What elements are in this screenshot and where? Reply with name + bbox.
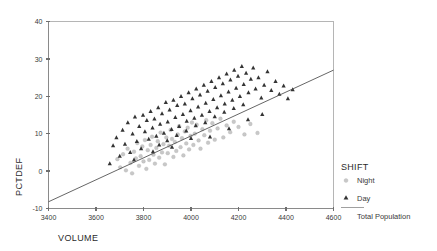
data-point-day — [143, 129, 147, 133]
data-point-night — [149, 143, 153, 147]
chart-canvas: -10010203040 PCTDEF 34003600380040004200… — [0, 0, 437, 251]
data-point-night — [213, 138, 217, 142]
data-point-night — [208, 129, 212, 133]
data-point-night — [182, 153, 186, 157]
data-point-day — [171, 98, 175, 102]
data-point-day — [236, 74, 240, 78]
data-point-day — [238, 94, 242, 98]
data-point-night — [197, 139, 201, 143]
data-point-night — [256, 131, 260, 135]
data-point-night — [187, 148, 191, 152]
data-point-day — [226, 90, 230, 94]
data-point-day — [121, 128, 125, 132]
data-point-day — [166, 119, 170, 123]
data-point-day — [133, 115, 137, 119]
y-tick-label: 20 — [35, 93, 43, 100]
data-point-night — [243, 133, 247, 137]
data-point-night — [130, 171, 134, 175]
y-axis: -10010203040 PCTDEF — [14, 18, 50, 212]
data-point-day — [269, 88, 273, 92]
data-point-night — [221, 136, 225, 140]
data-point-day — [207, 109, 211, 113]
data-point-night — [157, 156, 161, 160]
data-point-night — [132, 150, 136, 154]
data-point-day — [228, 78, 232, 82]
data-point-day — [256, 75, 260, 79]
data-point-night — [228, 130, 232, 134]
data-point-day — [126, 120, 130, 124]
data-point-night — [248, 122, 252, 126]
data-point-day — [282, 84, 286, 88]
data-point-day — [232, 68, 236, 72]
data-point-night — [202, 133, 206, 137]
data-point-day — [209, 79, 213, 83]
data-point-night — [166, 151, 170, 155]
data-point-day — [232, 106, 236, 110]
x-tick-label: 4400 — [278, 214, 294, 221]
data-point-night — [216, 127, 220, 131]
data-point-night — [124, 168, 128, 172]
data-point-day — [123, 142, 127, 146]
data-point-night — [139, 154, 143, 158]
y-tick-label: 30 — [35, 56, 43, 63]
data-point-night — [137, 164, 141, 168]
data-point-night — [191, 143, 195, 147]
data-point-day — [241, 102, 245, 106]
legend-title: SHIFT — [341, 162, 369, 172]
data-point-night — [146, 148, 150, 152]
legend-item-total-population[interactable]: Total Population — [341, 208, 410, 222]
data-point-day — [135, 139, 139, 143]
data-point-day — [215, 105, 219, 109]
data-point-day — [251, 66, 255, 70]
data-point-night — [142, 159, 146, 163]
data-point-day — [244, 71, 248, 75]
data-point-day — [149, 109, 153, 113]
legend-item-day[interactable]: Day — [344, 194, 371, 203]
legend-label-day: Day — [357, 194, 371, 203]
data-point-day — [222, 110, 226, 114]
data-point-day — [173, 115, 177, 119]
data-point-day — [183, 101, 187, 105]
data-point-night — [163, 162, 167, 166]
data-point-night — [179, 145, 183, 149]
data-point-day — [206, 89, 210, 93]
data-point-day — [198, 93, 202, 97]
data-point-night — [150, 135, 154, 139]
data-point-day — [254, 87, 258, 91]
data-point-day — [154, 134, 158, 138]
legend-label-total-population: Total Population — [357, 212, 410, 221]
data-point-night — [121, 152, 125, 156]
data-point-night — [143, 138, 147, 142]
data-point-day — [145, 118, 149, 122]
data-point-night — [206, 141, 210, 145]
regression-line — [49, 70, 334, 202]
data-point-day — [175, 103, 179, 107]
data-point-day — [188, 108, 192, 112]
data-point-day — [114, 135, 118, 139]
data-point-night — [156, 139, 160, 143]
data-point-day — [108, 161, 112, 165]
legend-marker-day-icon — [344, 195, 349, 199]
data-point-day — [181, 112, 185, 116]
data-point-day — [137, 124, 141, 128]
x-tick-label: 4000 — [183, 214, 199, 221]
data-point-day — [249, 77, 253, 81]
data-point-night — [172, 155, 176, 159]
data-point-day — [164, 100, 168, 104]
legend-item-night[interactable]: Night — [344, 176, 375, 185]
y-tick-label: 10 — [35, 130, 43, 137]
data-point-day — [111, 143, 115, 147]
data-point-day — [262, 83, 266, 87]
data-point-day — [234, 86, 238, 90]
legend-marker-night-icon — [344, 179, 348, 183]
data-point-night — [170, 137, 174, 141]
data-point-day — [246, 90, 250, 94]
data-point-day — [240, 64, 244, 68]
x-axis: 3400360038004000420044004600 VOLUME — [41, 207, 342, 243]
series-night-points — [115, 117, 259, 175]
data-point-day — [221, 81, 225, 85]
data-point-day — [219, 93, 223, 97]
data-point-night — [232, 120, 236, 124]
data-point-day — [204, 101, 208, 105]
data-point-day — [213, 85, 217, 89]
